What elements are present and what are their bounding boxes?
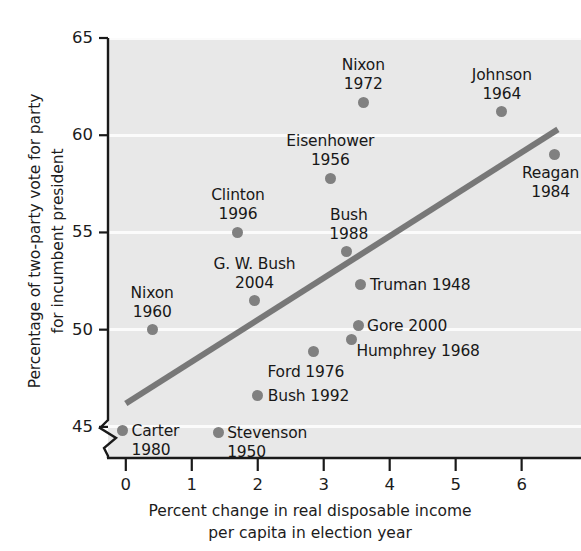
point-label-line: Clinton <box>211 186 265 205</box>
point-label: Stevenson1950 <box>227 424 307 458</box>
point-label-line: Nixon <box>131 284 174 303</box>
point-label: Carter1980 <box>132 422 180 458</box>
point-label-line: Johnson <box>472 66 532 85</box>
point-label-line: G. W. Bush <box>213 255 295 274</box>
point-label-line: 1996 <box>211 205 265 224</box>
point-label: Truman 1948 <box>370 276 471 295</box>
point-label: Ford 1976 <box>267 363 344 382</box>
data-point[interactable] <box>358 97 369 108</box>
point-label: Gore 2000 <box>367 317 447 336</box>
point-label-line: Eisenhower <box>286 132 374 151</box>
point-label-line: 1964 <box>472 85 532 104</box>
data-point[interactable] <box>249 295 260 306</box>
point-label-line: 1972 <box>342 75 385 94</box>
data-point[interactable] <box>355 279 366 290</box>
point-label-line: 1956 <box>286 151 374 170</box>
y-axis-title-line-2: for incumbent president <box>47 51 70 431</box>
point-label: G. W. Bush2004 <box>213 255 295 293</box>
x-axis-title-line-1: Percent change in real disposable income <box>60 500 560 522</box>
x-axis-title-line-2: per capita in election year <box>60 522 560 544</box>
y-axis-title-line-1: Percentage of two-party vote for party <box>24 51 47 431</box>
point-label: Nixon1960 <box>131 284 174 322</box>
point-label-line: 2004 <box>213 274 295 293</box>
x-tick-label-5: 5 <box>444 477 468 494</box>
point-label-line: 1980 <box>132 441 180 458</box>
point-label-line: Truman 1948 <box>370 276 471 295</box>
y-tick-label-60: 60 <box>59 127 93 144</box>
point-label: Johnson1964 <box>472 66 532 104</box>
y-tick-label-65: 65 <box>59 30 93 47</box>
point-label-line: 1950 <box>227 443 307 458</box>
point-label: Bush 1992 <box>268 387 349 406</box>
point-label: Eisenhower1956 <box>286 132 374 170</box>
data-point[interactable] <box>346 334 357 345</box>
y-tick-label-55: 55 <box>59 224 93 241</box>
point-label-line: Stevenson <box>227 424 307 443</box>
point-label-line: 1984 <box>522 183 579 202</box>
x-tick-label-1: 1 <box>180 477 204 494</box>
point-label-line: 1988 <box>329 225 368 244</box>
point-label-line: Gore 2000 <box>367 317 447 336</box>
point-label: Reagan1984 <box>522 164 579 202</box>
point-label-line: 1960 <box>131 303 174 322</box>
x-tick-label-3: 3 <box>312 477 336 494</box>
data-point[interactable] <box>353 320 364 331</box>
point-label: Humphrey 1968 <box>356 342 479 361</box>
data-point[interactable] <box>213 427 224 438</box>
point-label-line: Reagan <box>522 164 579 183</box>
data-point[interactable] <box>308 346 319 357</box>
x-tick-label-6: 6 <box>510 477 534 494</box>
point-label-line: Bush 1992 <box>268 387 349 406</box>
point-label: Clinton1996 <box>211 186 265 224</box>
y-axis-title: Percentage of two-party vote for party f… <box>24 51 70 431</box>
y-tick-label-50: 50 <box>59 322 93 339</box>
point-label-line: Ford 1976 <box>267 363 344 382</box>
point-label-line: Nixon <box>342 56 385 75</box>
point-label-line: Bush <box>329 206 368 225</box>
point-label-line: Humphrey 1968 <box>356 342 479 361</box>
data-point[interactable] <box>147 324 158 335</box>
x-axis-title: Percent change in real disposable income… <box>60 500 560 544</box>
x-tick-label-0: 0 <box>114 477 138 494</box>
y-tick-label-45: 45 <box>59 419 93 436</box>
x-tick-label-2: 2 <box>246 477 270 494</box>
data-point[interactable] <box>325 173 336 184</box>
point-label: Bush1988 <box>329 206 368 244</box>
scatter-chart-figure: Percentage of two-party vote for party f… <box>0 0 581 551</box>
plot-area: Carter1980Stevenson1950Bush 1992Ford 197… <box>108 38 581 458</box>
x-tick-label-4: 4 <box>378 477 402 494</box>
point-label: Nixon1972 <box>342 56 385 94</box>
point-label-line: Carter <box>132 422 180 441</box>
